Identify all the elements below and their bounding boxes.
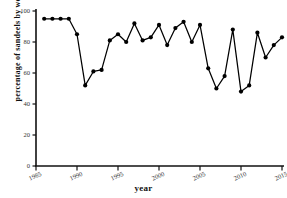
data-point (165, 43, 169, 47)
data-point (206, 66, 210, 70)
y-tick-label: 60 (24, 69, 31, 76)
x-tick-label: 1995 (110, 170, 125, 182)
data-point (116, 32, 120, 36)
x-axis-title: year (0, 183, 287, 193)
data-point (132, 21, 136, 25)
data-point (67, 17, 71, 21)
data-point (214, 86, 218, 90)
data-point (231, 28, 235, 32)
data-point (255, 31, 259, 35)
data-point (83, 83, 87, 87)
x-tick-label: 2010 (233, 170, 248, 182)
y-axis-ticks: 020406080100 (20, 7, 36, 169)
data-point (198, 23, 202, 27)
data-point (182, 20, 186, 24)
x-axis-ticks: 1985199019952000200520102015 (28, 166, 287, 182)
y-tick-label: 100 (20, 7, 30, 14)
data-point-markers (42, 17, 284, 94)
data-point (239, 90, 243, 94)
data-point (59, 17, 63, 21)
data-point (100, 68, 104, 72)
data-point (141, 38, 145, 42)
line-chart-plot: 020406080100 198519901995200020052010201… (0, 0, 287, 198)
chart-container: 020406080100 198519901995200020052010201… (0, 0, 287, 198)
data-point (149, 35, 153, 39)
x-tick-label: 2000 (151, 170, 166, 182)
data-point (50, 17, 54, 21)
data-point (173, 26, 177, 30)
y-tick-label: 0 (27, 162, 30, 169)
data-point (124, 40, 128, 44)
data-point (272, 43, 276, 47)
data-point (157, 23, 161, 27)
data-point (190, 40, 194, 44)
data-point (108, 38, 112, 42)
x-tick-label: 1990 (69, 170, 84, 182)
data-series-line (44, 19, 282, 92)
y-axis-title: percentage of sandeels by weight (13, 0, 22, 108)
data-point (223, 74, 227, 78)
data-point (75, 32, 79, 36)
x-tick-label: 1985 (28, 170, 43, 182)
y-tick-label: 20 (24, 131, 31, 138)
data-point (280, 35, 284, 39)
y-tick-label: 40 (24, 100, 31, 107)
x-tick-label: 2015 (274, 170, 287, 182)
y-tick-label: 80 (24, 38, 31, 45)
data-point (42, 17, 46, 21)
x-tick-label: 2005 (192, 170, 207, 182)
data-point (91, 69, 95, 73)
data-point (264, 55, 268, 59)
data-point (247, 83, 251, 87)
